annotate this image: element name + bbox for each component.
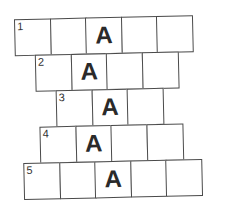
cell-letter [60,167,95,168]
puzzle-row-4: 4A [39,123,183,163]
cell-letter [122,22,157,23]
puzzle-cell[interactable] [110,124,148,162]
puzzle-cell[interactable]: A [94,161,132,199]
puzzle-row-2: 2A [35,52,179,92]
cell-letter [166,165,201,166]
puzzle-cell[interactable]: 1 [14,18,52,56]
puzzle-cell[interactable] [59,161,97,199]
cell-letter [107,58,142,59]
puzzle-cell[interactable] [141,52,179,90]
puzzle-cell[interactable]: 3 [56,89,94,127]
puzzle-cell[interactable]: A [75,125,113,163]
puzzle-cell[interactable] [165,159,203,197]
cell-letter: A [86,23,122,48]
puzzle-cell[interactable]: 5 [23,162,61,200]
word-puzzle-grid: 1A2A3A4A5A [0,0,227,214]
puzzle-cell[interactable] [120,16,158,54]
puzzle-cell[interactable]: 4 [39,126,77,164]
puzzle-cell[interactable]: 2 [35,54,73,92]
cell-letter: A [71,59,107,84]
cell-letter: A [95,167,131,192]
puzzle-cell[interactable] [146,123,184,161]
puzzle-cell[interactable]: A [85,17,123,55]
puzzle-cell[interactable] [127,88,165,126]
puzzle-row-3: 3A [56,88,165,127]
cell-letter [142,58,177,59]
puzzle-row-5: 5A [23,159,203,200]
cell-letter: A [76,131,112,156]
cell-letter: A [92,95,128,120]
puzzle-cell[interactable]: A [91,89,129,127]
row-number: 3 [59,92,65,103]
puzzle-cell[interactable]: A [70,53,108,91]
puzzle-cell[interactable] [49,18,87,56]
row-number: 4 [42,128,48,139]
puzzle-cell[interactable] [130,160,168,198]
cell-letter [131,166,166,167]
cell-letter [112,130,147,131]
row-number: 5 [26,165,32,176]
cell-letter [147,129,182,130]
cell-letter [51,24,86,25]
cell-letter [157,21,192,22]
row-number: 2 [38,57,44,68]
puzzle-row-1: 1A [14,15,194,56]
cell-letter [128,94,163,95]
puzzle-cell[interactable] [156,15,194,53]
row-number: 1 [17,21,23,32]
puzzle-cell[interactable] [106,52,144,90]
